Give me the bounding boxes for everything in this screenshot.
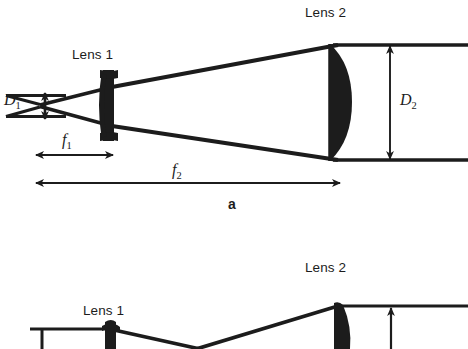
panel-b-lens-1-label: Lens 1	[83, 304, 124, 318]
expanding-beam-rays	[112, 45, 338, 160]
f2-subscript: 2	[176, 170, 181, 181]
panel-b-lens-1-element	[102, 320, 120, 349]
d2-subscript: 2	[412, 100, 417, 111]
optical-diagram-svg	[0, 0, 468, 349]
lens-1-element	[100, 70, 118, 141]
panel-a-lens-1-label: Lens 1	[72, 48, 113, 62]
panel-a-caption: a	[228, 197, 236, 211]
panel-a-d2-label: D2	[400, 92, 417, 112]
panel-b-lens-2-element	[334, 302, 350, 349]
d2-symbol: D	[400, 91, 412, 108]
f1-subscript: 1	[66, 140, 71, 151]
panel-a-d1-label: D1	[4, 92, 21, 112]
focus-crossing-rays	[40, 88, 108, 125]
lens-2-element	[330, 44, 352, 161]
panel-a-f1-label: f1	[62, 132, 72, 152]
panel-a-f2-label: f2	[172, 162, 182, 182]
figure-canvas: Lens 1 Lens 2 D1 D2 f1 f2 a Lens 1 Lens …	[0, 0, 468, 349]
panel-b-lens-2-label: Lens 2	[305, 261, 346, 275]
d1-subscript: 1	[16, 100, 21, 111]
d1-symbol: D	[4, 91, 16, 108]
panel-a-group	[6, 44, 468, 183]
panel-b-diverging-ray	[114, 330, 200, 349]
panel-a-lens-2-label: Lens 2	[305, 6, 346, 20]
panel-b-converging-ray	[196, 306, 338, 349]
panel-b-input-ray	[30, 329, 112, 349]
